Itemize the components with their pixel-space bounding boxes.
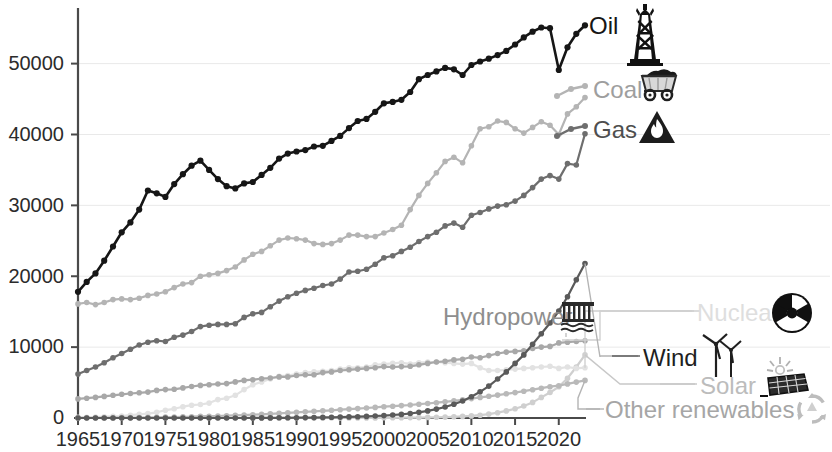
- data-point: [276, 374, 282, 380]
- data-point: [442, 159, 448, 165]
- data-point: [495, 52, 501, 58]
- data-point: [469, 143, 475, 149]
- data-point: [434, 400, 440, 406]
- data-point: [547, 384, 553, 390]
- data-point: [119, 415, 125, 421]
- data-point: [259, 172, 265, 178]
- data-point: [425, 408, 431, 414]
- data-point: [189, 280, 195, 286]
- data-point: [442, 359, 448, 365]
- data-point: [372, 109, 378, 115]
- data-point: [93, 364, 99, 370]
- data-point: [381, 413, 387, 419]
- data-point: [539, 395, 545, 401]
- data-point: [407, 207, 413, 213]
- x-tick-label: 1975: [143, 428, 188, 450]
- data-point: [171, 406, 177, 412]
- data-point: [364, 366, 370, 372]
- data-point: [486, 411, 492, 417]
- series-coal: [75, 95, 588, 308]
- y-tick-label: 50000: [8, 52, 64, 74]
- data-point: [521, 193, 527, 199]
- data-point: [346, 406, 352, 412]
- data-point: [119, 296, 125, 302]
- data-point: [294, 373, 300, 379]
- legend-marker: [582, 123, 588, 129]
- leader-lines: [554, 83, 700, 409]
- data-point: [259, 310, 265, 316]
- data-point: [381, 364, 387, 370]
- data-point: [574, 162, 580, 168]
- data-point: [486, 383, 492, 389]
- data-point: [92, 270, 98, 276]
- data-point: [180, 332, 186, 338]
- data-point: [512, 41, 518, 47]
- data-point: [84, 300, 90, 306]
- data-point: [407, 364, 413, 370]
- data-point: [320, 415, 326, 421]
- data-point: [512, 126, 518, 132]
- series-path: [78, 98, 585, 305]
- gridlines: [78, 64, 830, 348]
- x-tick-label: 2020: [537, 428, 582, 450]
- data-point: [407, 89, 413, 95]
- data-point: [75, 289, 81, 295]
- data-point: [328, 138, 334, 144]
- data-point: [556, 67, 562, 73]
- data-point: [180, 385, 186, 391]
- data-point: [442, 404, 448, 410]
- data-point: [189, 415, 195, 421]
- data-point: [460, 72, 466, 78]
- data-point: [145, 415, 151, 421]
- data-point: [539, 119, 545, 125]
- data-point: [198, 273, 204, 279]
- data-point: [337, 276, 343, 282]
- data-point: [539, 176, 545, 182]
- data-point: [503, 48, 509, 54]
- data-point: [556, 366, 562, 372]
- data-point: [285, 235, 291, 241]
- data-point: [136, 415, 142, 421]
- data-point: [556, 308, 562, 314]
- data-point: [477, 412, 483, 418]
- leader-other: [578, 380, 600, 409]
- data-point: [477, 58, 483, 64]
- data-point: [163, 415, 169, 421]
- data-point: [512, 198, 518, 204]
- data-point: [355, 414, 361, 420]
- data-point: [224, 395, 230, 401]
- data-point: [189, 329, 195, 335]
- data-point: [75, 301, 81, 307]
- data-point: [154, 410, 160, 416]
- data-point: [565, 161, 571, 167]
- series-lines: [75, 22, 588, 421]
- data-point: [346, 269, 352, 275]
- data-point: [434, 406, 440, 412]
- data-point: [154, 338, 160, 344]
- data-point: [372, 413, 378, 419]
- data-point: [460, 361, 466, 367]
- data-point: [504, 120, 510, 126]
- data-point: [469, 394, 475, 400]
- data-point: [468, 62, 474, 68]
- data-point: [530, 185, 536, 191]
- data-point: [486, 206, 492, 212]
- data-point: [486, 394, 492, 400]
- data-point: [311, 372, 317, 378]
- data-point: [267, 165, 273, 171]
- data-point: [346, 367, 352, 373]
- data-point: [215, 322, 221, 328]
- data-point: [425, 415, 431, 421]
- data-point: [565, 376, 571, 382]
- data-point: [241, 180, 247, 186]
- series-path: [78, 25, 585, 292]
- data-point: [346, 232, 352, 238]
- data-point: [154, 388, 160, 394]
- data-point: [547, 320, 553, 326]
- legend-marker: [554, 93, 560, 99]
- data-point: [477, 395, 483, 401]
- data-point: [320, 408, 326, 414]
- data-point: [381, 404, 387, 410]
- data-point: [407, 411, 413, 417]
- data-point: [372, 261, 378, 267]
